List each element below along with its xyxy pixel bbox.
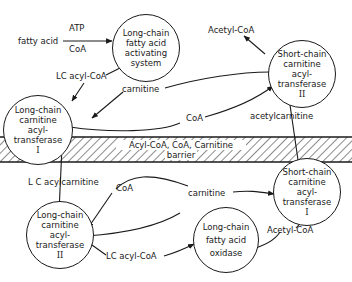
node-text: transferase	[283, 197, 331, 207]
label-acetylcarnitine: acetylcarnitine	[250, 112, 313, 121]
label-lc-acyl-coa-bottom: LC acyl-CoA	[106, 252, 157, 261]
label-acetyl-coa-bottom: Acetyl-CoA	[267, 226, 313, 235]
label-coa-bottom: CoA	[116, 184, 133, 193]
node-text: Long-chain	[15, 105, 62, 115]
curve-lc2-carnitine	[86, 213, 180, 236]
node-text: acyl-	[50, 230, 70, 240]
node-text: II	[57, 250, 64, 260]
node-lc-fatty-acid-oxidase: Long-chain fatty acid oxidase	[193, 207, 259, 273]
node-text: Long-chain	[203, 222, 250, 232]
node-sc-carnitine-acyltransferase-1: Short-chain carnitine acyl- transferase …	[273, 158, 341, 226]
node-text: acyl-	[297, 187, 317, 197]
node-text: carnitine	[19, 115, 56, 125]
label-acetyl-coa-top: Acetyl-CoA	[208, 26, 254, 35]
label-carnitine-bottom: carnitine	[188, 189, 225, 198]
label-atp: ATP	[69, 24, 84, 33]
label-coa-top: CoA	[69, 45, 86, 54]
membrane-label-line2: barrier	[165, 150, 198, 160]
node-text: I	[305, 207, 308, 217]
node-text: system	[131, 58, 162, 68]
arrow-acetyl-coa-top	[244, 36, 265, 54]
node-lc-carnitine-acyltransferase-2: Long-chain carnitine acyl- transferase I…	[26, 201, 94, 269]
node-lc-fatty-acid-activating-system: Long-chain fatty acid activating system	[112, 14, 180, 82]
node-text: fatty acid	[126, 38, 166, 48]
curve-lc1-coa	[70, 123, 180, 131]
node-text: Short-chain	[278, 49, 327, 59]
node-text: transferase	[278, 79, 326, 89]
arrow-acyl-coa-oxidase	[164, 244, 194, 256]
node-sc-carnitine-acyltransferase-2: Short-chain carnitine acyl- transferase …	[268, 40, 336, 108]
node-text: fatty acid	[206, 235, 246, 245]
membrane-label-line1: Acyl-CoA, CoA, Carnitine	[116, 140, 246, 150]
label-coa-mid-top: CoA	[186, 114, 203, 123]
node-text: transferase	[36, 240, 84, 250]
node-text: transferase	[14, 135, 62, 145]
node-text: Long-chain	[123, 28, 170, 38]
node-text: Short-chain	[283, 167, 332, 177]
node-text: oxidase	[210, 248, 243, 258]
node-text: I	[36, 145, 39, 155]
node-text: II	[299, 89, 306, 99]
node-text: acyl-	[28, 125, 48, 135]
node-text: carnitine	[41, 220, 78, 230]
label-lc-acylcarnitine: L C acylcarnitine	[28, 178, 99, 187]
node-lc-carnitine-acyltransferase-1: Long-chain carnitine acyl- transferase I	[3, 95, 73, 165]
membrane-label: Acyl-CoA, CoA, Carnitine barrier	[116, 140, 246, 160]
arrow-carnitine-sc1	[233, 191, 274, 194]
arrow-carnitine-top	[92, 92, 123, 118]
curve-carnitine-sc2	[165, 72, 270, 88]
node-text: activating	[125, 48, 167, 58]
label-lc-acyl-coa-top: LC acyl-CoA	[56, 72, 107, 81]
node-text: Long-chain	[37, 210, 84, 220]
node-text: carnitine	[288, 177, 325, 187]
label-carnitine-top: carnitine	[122, 85, 159, 94]
node-text: carnitine	[283, 59, 320, 69]
label-fatty-acid: fatty acid	[18, 37, 58, 46]
node-text: acyl-	[292, 69, 312, 79]
